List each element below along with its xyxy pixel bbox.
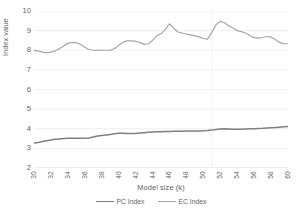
x-axis-tick-labels: 30323436384042444648505254565860 xyxy=(34,170,288,184)
x-tick-label: 34 xyxy=(63,168,73,182)
x-tick-label: 40 xyxy=(114,168,124,182)
x-tick-label: 42 xyxy=(131,168,141,182)
x-tick-label: 36 xyxy=(80,168,90,182)
y-tick-label: 4 xyxy=(14,125,31,133)
x-tick-label: 52 xyxy=(215,168,225,182)
legend-item[interactable]: EC Index xyxy=(158,199,207,206)
x-axis-title: Model size (k) xyxy=(34,183,288,192)
legend-label: EC Index xyxy=(179,199,207,206)
y-tick-label: 6 xyxy=(14,86,31,94)
legend-label: PC Index xyxy=(117,199,145,206)
x-tick-label: 56 xyxy=(249,168,259,182)
legend-item[interactable]: PC Index xyxy=(96,199,145,206)
x-tick-label: 58 xyxy=(266,168,276,182)
y-tick-label: 5 xyxy=(14,105,31,113)
legend-swatch-icon xyxy=(96,201,114,202)
x-tick-label: 44 xyxy=(148,168,158,182)
y-tick-label: 9 xyxy=(14,27,31,35)
y-tick-label: 7 xyxy=(14,66,31,74)
x-tick-label: 60 xyxy=(283,168,293,182)
series-line-ec-index xyxy=(34,21,288,52)
x-tick-label: 38 xyxy=(97,168,107,182)
y-axis-title: Index value xyxy=(1,2,13,72)
x-tick-label: 50 xyxy=(198,168,208,182)
x-tick-label: 54 xyxy=(232,168,242,182)
legend-swatch-icon xyxy=(158,201,176,202)
plot-svg xyxy=(34,11,288,168)
line-chart: Index value 2345678910 30323436384042444… xyxy=(0,0,302,214)
y-tick-label: 8 xyxy=(14,46,31,54)
y-tick-label: 3 xyxy=(14,144,31,152)
x-tick-label: 48 xyxy=(181,168,191,182)
chart-legend: PC IndexEC Index xyxy=(0,196,302,208)
plot-area xyxy=(34,11,288,168)
x-tick-label: 30 xyxy=(29,168,39,182)
series-layer xyxy=(34,21,288,143)
gridlines xyxy=(34,11,288,168)
y-tick-label: 10 xyxy=(14,7,31,15)
x-tick-label: 46 xyxy=(164,168,174,182)
x-tick-label: 32 xyxy=(46,168,56,182)
